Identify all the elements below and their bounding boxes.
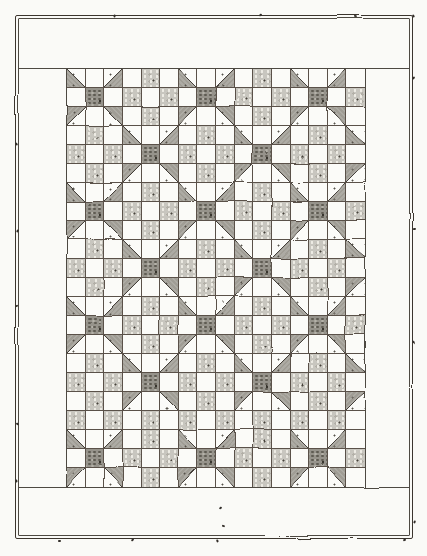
quilt-patch-white xyxy=(216,240,235,259)
quilt-patch-white xyxy=(309,335,328,354)
quilt-patch-light-print xyxy=(179,145,198,164)
quilt-patch-hst-dark-top-left xyxy=(291,221,310,240)
quilt-patch-white xyxy=(104,449,123,468)
quilt-patch-hst-dark-top-right xyxy=(216,107,235,126)
quilt-patch-white xyxy=(160,430,179,449)
quilt-patch-hst-dark-bottom-right xyxy=(216,69,235,88)
quilt-patch-white xyxy=(291,164,310,183)
quilt-patch-hst-dark-top-right xyxy=(104,468,123,487)
quilt-patch-hst-dark-top-left xyxy=(179,107,198,126)
quilt-patch-hst-dark-top-right xyxy=(272,278,291,297)
stitch-mark xyxy=(297,537,300,540)
quilt-patch-hst-dark-bottom-right xyxy=(160,240,179,259)
quilt-patch-white xyxy=(346,145,365,164)
quilt-patch-white xyxy=(67,449,86,468)
quilt-patch-dark-print xyxy=(309,449,328,468)
quilt-patch-white xyxy=(179,449,198,468)
quilt-patch-white xyxy=(86,145,105,164)
quilt-patch-white xyxy=(235,183,254,202)
quilt-patch-light-print xyxy=(253,221,272,240)
quilt-patch-white xyxy=(160,69,179,88)
quilt-patch-light-print xyxy=(291,411,310,430)
quilt-illustration xyxy=(0,0,427,556)
quilt-patch-white xyxy=(197,259,216,278)
quilt-patch-hst-dark-bottom-right xyxy=(328,183,347,202)
quilt-patch-hst-dark-bottom-left xyxy=(123,126,142,145)
quilt-patch-white xyxy=(216,202,235,221)
quilt-patch-hst-dark-top-right xyxy=(272,392,291,411)
quilt-drawing xyxy=(0,0,427,556)
quilt-patch-hst-dark-bottom-left xyxy=(67,69,86,88)
quilt-patch-hst-dark-top-left xyxy=(123,392,142,411)
quilt-patch-light-print xyxy=(142,335,161,354)
quilt-patch-light-print xyxy=(160,202,179,221)
quilt-patch-white xyxy=(197,468,216,487)
quilt-patch-white xyxy=(104,126,123,145)
quilt-patch-light-print xyxy=(197,278,216,297)
quilt-patch-dark-print xyxy=(197,88,216,107)
quilt-patch-white xyxy=(309,221,328,240)
quilt-patch-hst-dark-bottom-right xyxy=(216,297,235,316)
quilt-patch-white xyxy=(67,392,86,411)
quilt-patch-white xyxy=(309,411,328,430)
quilt-patch-white xyxy=(346,107,365,126)
quilt-patch-light-print xyxy=(272,88,291,107)
quilt-patch-light-print xyxy=(142,183,161,202)
quilt-patch-light-print xyxy=(123,88,142,107)
quilt-patch-white xyxy=(67,354,86,373)
quilt-patch-hst-dark-bottom-left xyxy=(291,183,310,202)
quilt-patch-light-print xyxy=(309,354,328,373)
quilt-patch-white xyxy=(179,126,198,145)
stitch-mark xyxy=(58,540,61,542)
quilt-patch-hst-dark-top-left xyxy=(179,221,198,240)
quilt-patch-dark-print xyxy=(253,373,272,392)
quilt-patch-light-print xyxy=(160,316,179,335)
quilt-patch-white xyxy=(272,411,291,430)
quilt-patch-light-print xyxy=(197,392,216,411)
quilt-patch-hst-dark-bottom-right xyxy=(272,126,291,145)
quilt-patch-white xyxy=(197,411,216,430)
quilt-patch-white xyxy=(216,449,235,468)
quilt-patch-white xyxy=(104,354,123,373)
quilt-patch-light-print xyxy=(291,373,310,392)
quilt-patch-light-print xyxy=(104,259,123,278)
quilt-patch-light-print xyxy=(197,126,216,145)
quilt-patch-white xyxy=(291,202,310,221)
quilt-patch-white xyxy=(328,240,347,259)
quilt-patch-white xyxy=(309,297,328,316)
quilt-patch-light-print xyxy=(235,316,254,335)
quilt-patch-white xyxy=(253,164,272,183)
quilt-grid xyxy=(66,68,366,488)
quilt-patch-hst-dark-top-left xyxy=(67,221,86,240)
quilt-patch-white xyxy=(104,392,123,411)
quilt-patch-white xyxy=(235,335,254,354)
quilt-patch-white xyxy=(197,69,216,88)
quilt-patch-hst-dark-top-left xyxy=(235,278,254,297)
quilt-patch-dark-print xyxy=(309,316,328,335)
quilt-patch-dark-print xyxy=(86,449,105,468)
stitch-mark xyxy=(216,539,219,542)
quilt-patch-light-print xyxy=(346,88,365,107)
quilt-patch-dark-print xyxy=(253,145,272,164)
quilt-patch-white xyxy=(123,221,142,240)
quilt-patch-white xyxy=(123,69,142,88)
quilt-patch-white xyxy=(272,259,291,278)
quilt-patch-hst-dark-bottom-right xyxy=(328,430,347,449)
quilt-patch-white xyxy=(86,107,105,126)
quilt-patch-white xyxy=(197,183,216,202)
quilt-patch-dark-print xyxy=(309,202,328,221)
quilt-patch-light-print xyxy=(142,107,161,126)
quilt-patch-white xyxy=(86,335,105,354)
quilt-patch-white xyxy=(272,373,291,392)
quilt-patch-hst-dark-top-left xyxy=(179,468,198,487)
quilt-patch-white xyxy=(160,468,179,487)
quilt-patch-light-print xyxy=(104,411,123,430)
quilt-patch-light-print xyxy=(309,240,328,259)
quilt-patch-white xyxy=(346,69,365,88)
quilt-patch-light-print xyxy=(104,145,123,164)
quilt-patch-white xyxy=(179,278,198,297)
quilt-patch-hst-dark-bottom-right xyxy=(272,354,291,373)
quilt-patch-white xyxy=(123,259,142,278)
quilt-patch-hst-dark-top-left xyxy=(291,468,310,487)
stitch-mark xyxy=(131,538,134,541)
